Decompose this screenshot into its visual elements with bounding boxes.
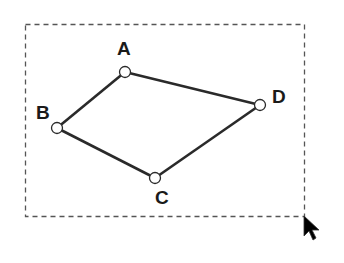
edge-b-a[interactable] [57,72,125,128]
edge-d-c[interactable] [155,105,260,178]
vertex-c[interactable] [150,173,161,184]
arrow-cursor-icon [304,216,319,240]
vertex-label-c: C [155,187,169,208]
vertex-label-d: D [272,86,286,107]
vertex-a[interactable] [120,67,131,78]
vertex-label-b: B [36,102,50,123]
edge-a-d[interactable] [125,72,260,105]
edge-c-b[interactable] [57,128,155,178]
diagram-canvas: A B C D [0,0,344,263]
vertex-d[interactable] [255,100,266,111]
vertex-b[interactable] [52,123,63,134]
vertex-label-a: A [117,38,131,59]
